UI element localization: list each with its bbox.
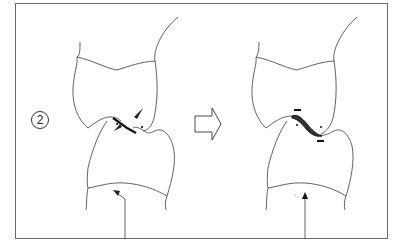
interference-arrowhead-upper [134,108,143,119]
speck-2 [297,196,298,197]
contact-line-before [113,118,136,133]
minus-mark-lower [317,140,324,142]
contact-dot-3 [296,124,298,126]
force-arrowhead-after [302,192,308,199]
force-arrowhead-before [113,190,120,196]
force-arrow-before [117,193,125,239]
lower-tooth-before [86,121,174,210]
upper-tooth-after [252,17,357,134]
speck-1 [294,194,295,195]
transition-arrow-icon [195,108,221,140]
minus-mark-upper [294,109,301,111]
upper-tooth-before [73,17,178,131]
occlusal-adjustment-diagram [0,0,397,245]
contact-dot-2 [141,126,143,128]
contact-dot-4 [320,126,322,128]
contact-dot-1 [116,123,118,125]
interference-arrowhead-lower [114,124,122,131]
lower-tooth-after [266,121,353,210]
